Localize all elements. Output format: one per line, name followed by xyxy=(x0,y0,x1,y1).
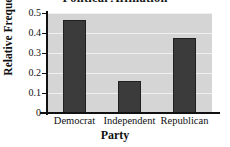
y-tick-mark-0.5 xyxy=(42,13,47,14)
y-tick-mark-0.2 xyxy=(42,73,47,74)
chart-title: Political Affiliation xyxy=(0,0,230,6)
x-tick-label-democrat: Democrat xyxy=(47,115,102,126)
y-tick-label-0: 0 xyxy=(1,107,41,118)
bar-democrat xyxy=(63,20,86,113)
y-tick-mark-0.1 xyxy=(42,93,47,94)
y-tick-label-0.1: 0.1 xyxy=(1,87,41,98)
x-axis-line xyxy=(40,112,220,114)
y-tick-mark-0.4 xyxy=(42,33,47,34)
chart-figure: Political Affiliation Relative Frequency… xyxy=(0,0,230,147)
plot-area xyxy=(47,13,212,113)
y-tick-label-0.5: 0.5 xyxy=(1,7,41,18)
y-tick-mark-0.3 xyxy=(42,53,47,54)
y-tick-label-0.2: 0.2 xyxy=(1,67,41,78)
y-axis-line xyxy=(46,11,48,115)
bar-independent xyxy=(118,81,141,113)
x-axis-title: Party xyxy=(0,128,230,143)
y-tick-label-0.4: 0.4 xyxy=(1,27,41,38)
bar-republican xyxy=(173,38,196,113)
x-tick-label-independent: Independent xyxy=(102,115,157,126)
x-tick-label-republican: Republican xyxy=(157,115,212,126)
gridline-0.5 xyxy=(47,13,212,14)
y-tick-label-0.3: 0.3 xyxy=(1,47,41,58)
